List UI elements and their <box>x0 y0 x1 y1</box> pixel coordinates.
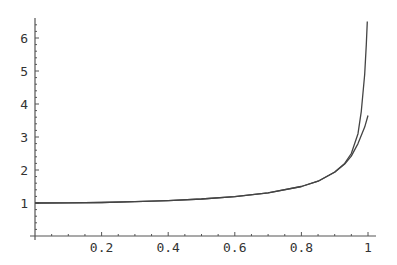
axes <box>30 18 376 240</box>
x-tick-label: 0.2 <box>90 240 113 255</box>
x-tick-label: 0.4 <box>156 240 180 255</box>
y-tick-label: 6 <box>20 31 28 46</box>
x-tick-label: 0.6 <box>223 240 246 255</box>
y-tick-label: 4 <box>20 97 28 112</box>
series-line-approximation <box>35 116 368 204</box>
x-tick-label: 0.8 <box>290 240 313 255</box>
series-line-function <box>35 22 367 204</box>
series <box>35 22 368 204</box>
ticks <box>35 25 368 236</box>
y-tick-label: 1 <box>20 196 28 211</box>
x-tick-label: 1 <box>364 240 372 255</box>
line-chart: 0.20.40.60.81123456 <box>0 0 397 265</box>
y-tick-label: 3 <box>20 130 28 145</box>
tick-labels: 0.20.40.60.81123456 <box>20 31 372 255</box>
y-tick-label: 5 <box>20 64 28 79</box>
y-tick-label: 2 <box>20 163 28 178</box>
